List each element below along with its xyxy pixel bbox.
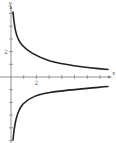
upper-curve [13,12,108,70]
y-tick-label-2: 2 [4,48,8,55]
y-axis-label: y [8,0,13,7]
x-axis-arrow-icon [108,76,112,79]
x-axis-label: x [112,69,116,76]
hyperbola-plot: y x 2 2 [0,0,116,143]
lower-curve [13,87,108,141]
x-tick-label-2: 2 [35,79,39,86]
